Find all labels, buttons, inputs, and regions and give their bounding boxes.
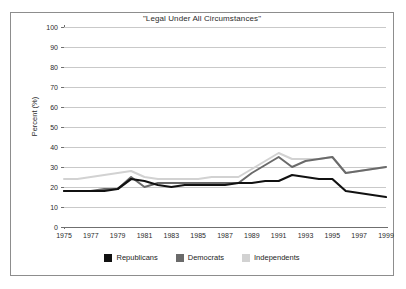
- y-tick-label: 40: [24, 144, 58, 151]
- y-tick-label: 80: [24, 64, 58, 71]
- legend-swatch-icon: [104, 254, 112, 262]
- series-line-independents: [64, 153, 386, 179]
- y-tick-label: 50: [24, 124, 58, 131]
- y-tick-mark: [61, 227, 64, 228]
- x-tick-label: 1999: [371, 232, 401, 240]
- x-axis-line: [64, 227, 388, 228]
- legend-swatch-icon: [176, 254, 184, 262]
- legend-item-democrats: Democrats: [176, 253, 224, 262]
- y-tick-label: 90: [24, 44, 58, 51]
- legend-item-independents: Independents: [242, 253, 299, 262]
- x-tick-label: 1977: [76, 232, 106, 240]
- legend-label: Independents: [254, 253, 299, 262]
- x-tick-label: 1997: [344, 232, 374, 240]
- x-tick-label: 1989: [237, 232, 267, 240]
- x-tick-label: 1979: [103, 232, 133, 240]
- y-tick-label: 20: [24, 184, 58, 191]
- legend-swatch-icon: [242, 254, 250, 262]
- x-tick-label: 1991: [264, 232, 294, 240]
- x-tick-label: 1995: [317, 232, 347, 240]
- chart-title: "Legal Under All Circumstances": [10, 14, 394, 23]
- x-tick-label: 1981: [130, 232, 160, 240]
- x-tick-label: 1975: [49, 232, 79, 240]
- legend-label: Republicans: [116, 253, 157, 262]
- chart-legend: RepublicansDemocratsIndependents: [10, 253, 394, 262]
- y-tick-label: 0: [24, 224, 58, 231]
- legend-item-republicans: Republicans: [104, 253, 157, 262]
- plot-area: [64, 27, 386, 227]
- x-tick-label: 1993: [291, 232, 321, 240]
- y-tick-label: 60: [24, 104, 58, 111]
- y-tick-label: 70: [24, 84, 58, 91]
- legend-label: Democrats: [188, 253, 224, 262]
- x-tick-label: 1985: [183, 232, 213, 240]
- series-line-republicans: [64, 175, 386, 197]
- x-tick-label: 1987: [210, 232, 240, 240]
- chart-figure: "Legal Under All Circumstances" Percent …: [0, 0, 406, 289]
- y-tick-label: 30: [24, 164, 58, 171]
- y-tick-label: 10: [24, 204, 58, 211]
- series-lines: [64, 27, 386, 227]
- x-tick-label: 1983: [156, 232, 186, 240]
- y-tick-label: 100: [24, 24, 58, 31]
